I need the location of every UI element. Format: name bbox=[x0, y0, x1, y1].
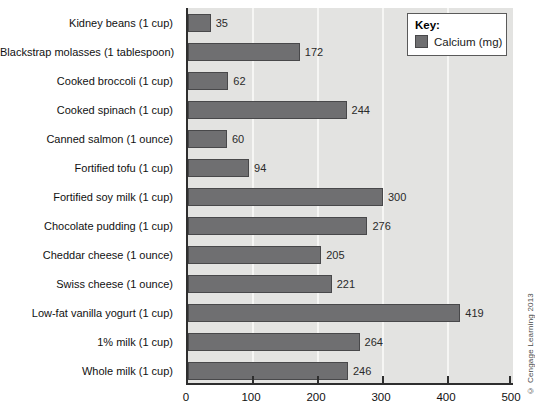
x-tick-label-0: 0 bbox=[166, 391, 206, 403]
value-label-4: 244 bbox=[352, 101, 370, 119]
x-tick-label-500: 500 bbox=[491, 391, 531, 403]
bar-7 bbox=[188, 188, 383, 206]
y-axis-category-labels: Kidney beans (1 cup)Blackstrap molasses … bbox=[0, 8, 179, 385]
category-label-3: Cooked broccoli (1 cup) bbox=[0, 72, 173, 90]
category-label-6: Fortified tofu (1 cup) bbox=[0, 159, 173, 177]
value-label-13: 246 bbox=[353, 362, 371, 380]
x-tick-label-200: 200 bbox=[296, 391, 336, 403]
value-label-2: 172 bbox=[305, 43, 323, 61]
category-label-1: Kidney beans (1 cup) bbox=[0, 14, 173, 32]
value-label-6: 94 bbox=[254, 159, 266, 177]
category-label-5: Canned salmon (1 ounce) bbox=[0, 130, 173, 148]
legend-key-box: Key: Calcium (mg) bbox=[407, 13, 507, 56]
category-label-8: Chocolate pudding (1 cup) bbox=[0, 217, 173, 235]
bar-13 bbox=[188, 362, 348, 380]
x-axis-tick-100 bbox=[252, 376, 254, 383]
bar-11 bbox=[188, 304, 460, 322]
bar-10 bbox=[188, 275, 332, 293]
value-label-10: 221 bbox=[337, 275, 355, 293]
x-tick-label-300: 300 bbox=[361, 391, 401, 403]
value-label-7: 300 bbox=[388, 188, 406, 206]
legend-label-calcium: Calcium (mg) bbox=[434, 36, 502, 48]
category-label-13: Whole milk (1 cup) bbox=[0, 362, 173, 380]
bar-3 bbox=[188, 72, 228, 90]
value-label-1: 35 bbox=[216, 14, 228, 32]
value-label-5: 60 bbox=[232, 130, 244, 148]
category-label-12: 1% milk (1 cup) bbox=[0, 333, 173, 351]
x-tick-label-100: 100 bbox=[231, 391, 271, 403]
x-tick-label-400: 400 bbox=[426, 391, 466, 403]
legend-item-calcium: Calcium (mg) bbox=[415, 35, 499, 48]
bar-1 bbox=[188, 14, 211, 32]
category-label-2: Blackstrap molasses (1 tablespoon) bbox=[0, 43, 173, 61]
bar-9 bbox=[188, 246, 321, 264]
bar-12 bbox=[188, 333, 360, 351]
calcium-bar-chart-figure: Kidney beans (1 cup)Blackstrap molasses … bbox=[0, 0, 536, 413]
legend-title: Key: bbox=[415, 19, 499, 31]
bar-5 bbox=[188, 130, 227, 148]
legend-swatch-calcium bbox=[415, 35, 428, 48]
category-label-10: Swiss cheese (1 ounce) bbox=[0, 275, 173, 293]
category-label-11: Low-fat vanilla yogurt (1 cup) bbox=[0, 304, 173, 322]
x-axis-tick-500 bbox=[509, 376, 511, 383]
bar-6 bbox=[188, 159, 249, 177]
x-axis-tick-300 bbox=[382, 376, 384, 383]
x-axis-tick-400 bbox=[447, 376, 449, 383]
gridline-400 bbox=[447, 8, 449, 383]
value-label-11: 419 bbox=[465, 304, 483, 322]
bar-4 bbox=[188, 101, 347, 119]
copyright-credit: © Cengage Learning 2013 bbox=[526, 293, 535, 395]
category-label-4: Cooked spinach (1 cup) bbox=[0, 101, 173, 119]
plot-area: 35172622446094300276205221419264246 bbox=[186, 8, 513, 385]
bar-8 bbox=[188, 217, 367, 235]
x-axis-tick-200 bbox=[317, 376, 319, 383]
value-label-8: 276 bbox=[372, 217, 390, 235]
value-label-3: 62 bbox=[233, 72, 245, 90]
value-label-12: 264 bbox=[365, 333, 383, 351]
category-label-7: Fortified soy milk (1 cup) bbox=[0, 188, 173, 206]
category-label-9: Cheddar cheese (1 ounce) bbox=[0, 246, 173, 264]
bar-2 bbox=[188, 43, 300, 61]
value-label-9: 205 bbox=[326, 246, 344, 264]
